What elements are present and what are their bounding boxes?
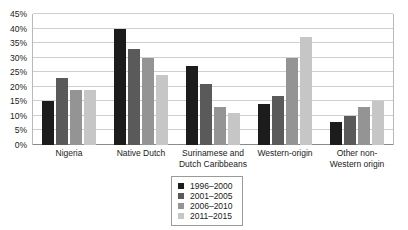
x-axis-category-label: Nigeria — [33, 148, 105, 170]
legend-item[interactable]: 1996–2000 — [178, 181, 233, 191]
bar[interactable] — [200, 84, 212, 145]
legend-item[interactable]: 2001–2005 — [178, 191, 233, 201]
bar[interactable] — [358, 107, 370, 145]
y-axis-tick-label: 30% — [10, 53, 27, 63]
bar[interactable] — [70, 90, 82, 145]
legend-label: 2006–2010 — [190, 201, 233, 211]
legend-label: 2011–2015 — [190, 211, 232, 221]
y-axis: 45%40%35%30%25%20%15%10%5%0% — [0, 14, 30, 145]
y-axis-tick-label: 45% — [10, 9, 27, 19]
bar-group — [105, 14, 177, 145]
bar[interactable] — [186, 66, 198, 145]
legend-swatch-icon — [178, 183, 184, 189]
legend-swatch-icon — [178, 213, 184, 219]
y-axis-tick-label: 20% — [10, 82, 27, 92]
bar[interactable] — [344, 116, 356, 145]
bar[interactable] — [258, 104, 270, 145]
y-axis-tick-label: 15% — [10, 96, 27, 106]
bar[interactable] — [142, 58, 154, 145]
legend-swatch-icon — [178, 203, 184, 209]
bar[interactable] — [56, 78, 68, 145]
legend-item[interactable]: 2011–2015 — [178, 211, 233, 221]
bar[interactable] — [42, 101, 54, 145]
y-axis-tick-label: 35% — [10, 38, 27, 48]
y-axis-tick-label: 10% — [10, 111, 27, 121]
bar[interactable] — [330, 122, 342, 145]
bar[interactable] — [300, 37, 312, 145]
x-axis-category-label: Surinamese and Dutch Caribbeans — [177, 148, 249, 170]
x-axis-category-label: Western-origin — [249, 148, 321, 170]
bar[interactable] — [228, 113, 240, 145]
x-axis: NigeriaNative DutchSurinamese and Dutch … — [33, 148, 393, 170]
bar[interactable] — [372, 101, 384, 145]
legend-swatch-icon — [178, 193, 184, 199]
y-axis-tick-label: 25% — [10, 67, 27, 77]
bar-group — [321, 14, 393, 145]
bar-group — [177, 14, 249, 145]
bar-chart: 45%40%35%30%25%20%15%10%5%0% NigeriaNati… — [0, 0, 408, 230]
bar[interactable] — [214, 107, 226, 145]
legend: 1996–20002001–20052006–20102011–2015 — [171, 176, 243, 226]
y-axis-tick-label: 0% — [15, 140, 27, 150]
bars-layer — [33, 14, 393, 145]
legend-item[interactable]: 2006–2010 — [178, 201, 233, 211]
bar[interactable] — [156, 75, 168, 145]
bar[interactable] — [114, 29, 126, 145]
x-axis-category-label: Native Dutch — [105, 148, 177, 170]
bar[interactable] — [128, 49, 140, 145]
legend-label: 2001–2005 — [190, 191, 233, 201]
y-axis-tick-label: 5% — [15, 125, 27, 135]
bar-group — [249, 14, 321, 145]
legend-label: 1996–2000 — [190, 181, 233, 191]
x-axis-category-label: Other non-Western origin — [321, 148, 393, 170]
y-axis-tick-label: 40% — [10, 24, 27, 34]
bar-group — [33, 14, 105, 145]
bar[interactable] — [84, 90, 96, 145]
bar[interactable] — [272, 96, 284, 145]
bar[interactable] — [286, 58, 298, 145]
